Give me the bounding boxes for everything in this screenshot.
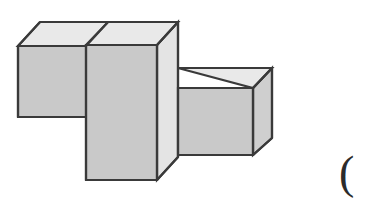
center-tall-block xyxy=(86,22,178,180)
figure-canvas: ( xyxy=(0,0,372,203)
center-tall-block-side-face xyxy=(157,22,178,180)
parenthesis-glyph: ( xyxy=(339,150,354,196)
right-small-cube xyxy=(178,68,272,155)
right-small-cube-front-face xyxy=(178,88,253,155)
center-tall-block-front-face xyxy=(86,45,157,180)
left-low-block-front-face xyxy=(18,46,88,117)
isometric-block-figure xyxy=(0,0,372,203)
